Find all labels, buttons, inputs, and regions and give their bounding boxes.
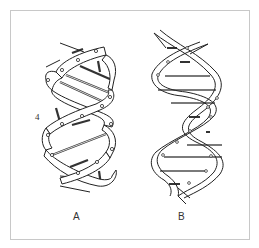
annotation-mark: 4 xyxy=(35,112,40,122)
helix-a xyxy=(42,43,116,192)
panel-label-a: A xyxy=(73,211,80,222)
panel-label-b: B xyxy=(178,211,185,222)
helix-b xyxy=(151,30,223,204)
dna-helix-figure: 4 xyxy=(0,0,259,248)
